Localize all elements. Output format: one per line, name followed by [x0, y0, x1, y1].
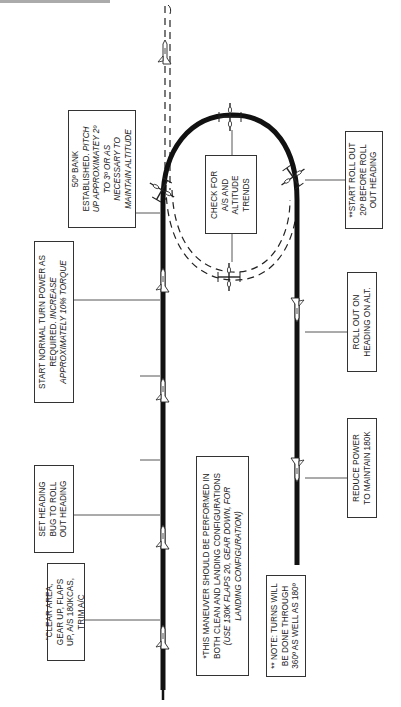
turns-note-box: ** NOTE: TURNS WILL BE DONE THROUGH 360º… — [266, 575, 306, 677]
reduce-power-line: TO MAINTAIN 180K — [362, 431, 373, 504]
clear-area-line: UP, A/S 180KCAS, — [66, 578, 77, 646]
start-turn-line: START NORMAL TURN POWER AS — [38, 255, 49, 389]
start-rollout-box: **START ROLL OUT 20º BEFORE ROLL OUT HEA… — [345, 131, 383, 229]
start-rollout-line: OUT HEADING — [369, 142, 380, 217]
bank-text: ESTABLISHED. — [81, 151, 90, 211]
bank-established-box: 50º BANK ESTABLISHED. PITCH UP APPROXIMA… — [68, 110, 136, 228]
bank-line: NECESSARY TO — [113, 126, 124, 213]
start-rollout-line: **START ROLL OUT — [348, 142, 359, 217]
check-trends-box: CHECK FOR A/S AND ALTITUDE TRENDS — [205, 155, 257, 234]
set-heading-line: SET HEADING — [38, 481, 49, 538]
bank-line: ESTABLISHED. PITCH — [81, 126, 92, 213]
check-trends-line: TRENDS — [242, 170, 253, 218]
aircraft-icon — [218, 263, 240, 291]
start-turn-line: REQUIRED. INCREASE — [49, 255, 60, 389]
check-trends-line: CHECK FOR — [210, 170, 221, 218]
bank-line: UP APPROXIMATEY 2º — [92, 126, 103, 213]
roll-out-box: ROLL OUT ON HEADING ON ALT. — [347, 272, 377, 372]
maneuver-note-line: (USE 130K FLAPS 20, GEAR DOWN, FOR — [223, 473, 234, 659]
bank-line: TO 3º OR AS — [102, 126, 113, 213]
reduce-power-line: REDUCE POWER — [352, 431, 363, 504]
turns-note-line: BE DONE THROUGH — [281, 583, 292, 668]
turns-note-line: 360º AS WELL AS 180º — [291, 583, 302, 668]
set-heading-box: SET HEADING BUG TO ROLL OUT HEADING — [34, 465, 74, 553]
aircraft-icon — [291, 298, 304, 322]
clear-area-line: "CLEAR AREA, — [45, 578, 56, 646]
start-turn-line: APPROXIMATELY 10% TORQUE — [59, 255, 70, 389]
set-heading-line: BUG TO ROLL — [49, 481, 60, 538]
bank-line: MAINTAIN ALTITUDE — [123, 126, 134, 213]
start-turn-box: START NORMAL TURN POWER AS REQUIRED. INC… — [34, 241, 74, 403]
clear-area-box: "CLEAR AREA, GEAR UP, FLAPS UP, A/S 180K… — [47, 563, 85, 661]
aircraft-icon — [158, 40, 171, 64]
maneuver-note-text: (USE 130K — [223, 602, 232, 645]
start-rollout-line: 20º BEFORE ROLL — [359, 142, 370, 217]
aircraft-icon — [219, 103, 241, 131]
maneuver-note-line: BOTH CLEAN AND LANDING CONFIGURATIONS — [212, 473, 223, 659]
turns-note-line: ** NOTE: TURNS WILL — [270, 583, 281, 668]
reduce-power-box: REDUCE POWER TO MAINTAIN 180K — [347, 418, 377, 518]
aircraft-icon — [156, 268, 169, 292]
maneuver-note-box: *THIS MANEUVER SHOULD BE PERFORMED IN BO… — [196, 456, 249, 676]
clear-area-line: GEAR UP, FLAPS — [56, 578, 67, 646]
check-trends-line: A/S AND — [221, 170, 232, 218]
aircraft-icon — [156, 525, 169, 549]
roll-out-line: HEADING ON ALT. — [362, 287, 373, 356]
roll-out-line: ROLL OUT ON — [352, 287, 363, 356]
clear-area-line: TRIM A/C — [77, 578, 88, 646]
aircraft-icon — [156, 625, 169, 649]
check-trends-line: ALTITUDE — [231, 170, 242, 218]
maneuver-note-text: FLAPS 20, GEAR DOWN, FOR — [223, 487, 232, 602]
start-turn-text-italic: INCREASE — [49, 277, 58, 319]
bank-text-italic: PITCH — [81, 127, 90, 152]
aircraft-icon — [156, 378, 169, 402]
start-turn-text: REQUIRED. — [49, 319, 58, 367]
maneuver-note-line: LANDING CONFIGURATION) — [233, 473, 244, 659]
aircraft-icon — [291, 458, 304, 482]
bank-line: 50º BANK — [71, 126, 82, 213]
set-heading-line: OUT HEADING — [59, 481, 70, 538]
maneuver-note-line: *THIS MANEUVER SHOULD BE PERFORMED IN — [202, 473, 213, 659]
